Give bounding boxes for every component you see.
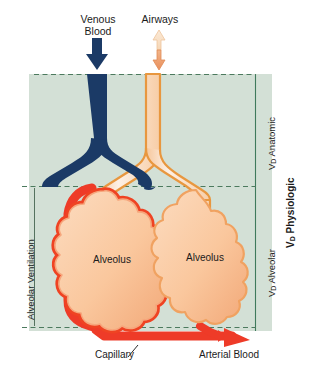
alveolus-dead-space-label: Alveolus xyxy=(163,252,247,263)
airways-label: Airways xyxy=(129,14,191,26)
diagram-svg xyxy=(0,0,317,378)
venous-blood-label: Venous Blood xyxy=(62,14,134,38)
vd-alveolar-sub: D xyxy=(270,286,277,291)
vd-physiologic-label: VD Physiologic xyxy=(285,177,297,248)
alveolus-perfused-label: Alveolus xyxy=(70,254,154,265)
venous-blood-arrow xyxy=(86,38,108,70)
figure-canvas: Venous Blood Airways Alveolus Alveolus C… xyxy=(0,0,317,378)
alveolar-ventilation-label: Alveolar Ventilation xyxy=(26,239,37,320)
vd-physiologic-sub: D xyxy=(289,236,296,241)
vd-physiologic-prefix: V xyxy=(285,241,296,248)
arterial-blood-label: Arterial Blood xyxy=(199,349,259,360)
vd-alveolar-suffix: Alveolar xyxy=(266,249,277,285)
vd-alveolar-prefix: V xyxy=(266,291,277,297)
vd-alveolar-label: VD Alveolar xyxy=(267,249,278,297)
vd-anatomic-prefix: V xyxy=(266,164,277,170)
venous-blood-label-line1: Venous xyxy=(62,14,134,26)
airways-arrow xyxy=(153,30,165,70)
vd-physiologic-suffix: Physiologic xyxy=(285,177,296,236)
airways-label-line1: Airways xyxy=(129,14,191,26)
venous-blood-label-line2: Blood xyxy=(62,26,134,38)
vd-anatomic-suffix: Anatomic xyxy=(266,117,277,159)
vd-anatomic-label: VD Anatomic xyxy=(267,117,278,170)
vd-anatomic-sub: D xyxy=(270,159,277,164)
capillary-label: Capillary xyxy=(95,349,134,360)
